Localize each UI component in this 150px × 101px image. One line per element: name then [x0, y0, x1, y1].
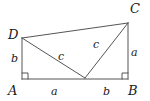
side-label-left-ad: b: [11, 53, 18, 64]
edge-CD: [22, 23, 128, 38]
side-label-bottom-pb: b: [103, 86, 110, 97]
right-angle-A-icon: [22, 73, 28, 79]
vertex-label-D: D: [8, 28, 18, 41]
geometry-figure: D C A B b a a b c c: [0, 0, 150, 101]
vertex-label-C: C: [130, 2, 140, 15]
side-label-hyp-pc: c: [93, 39, 99, 50]
vertex-label-B: B: [128, 84, 138, 97]
side-label-right-cb: a: [131, 47, 138, 58]
edge-DP: [22, 38, 85, 78]
right-angle-B-icon: [122, 73, 128, 79]
side-label-bottom-ap: a: [51, 86, 58, 97]
vertex-label-A: A: [8, 84, 17, 97]
edge-PC: [85, 23, 128, 78]
side-label-hyp-dp: c: [58, 51, 64, 62]
